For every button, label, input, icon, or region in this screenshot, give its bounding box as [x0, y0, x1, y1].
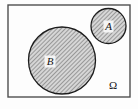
- set-b-circle: [29, 27, 96, 94]
- venn-diagram-canvas: B A Ω: [0, 0, 138, 109]
- venn-diagram-figure: B A Ω: [0, 0, 138, 109]
- set-b-label: B: [47, 55, 54, 67]
- universal-set-label: Ω: [109, 79, 117, 91]
- set-a-label: A: [104, 20, 112, 32]
